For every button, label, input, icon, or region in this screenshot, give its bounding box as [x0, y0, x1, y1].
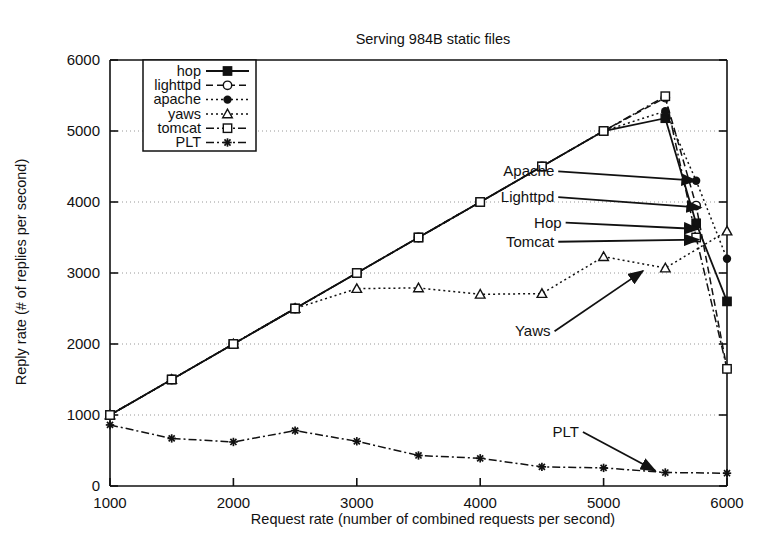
marker-tomcat [723, 365, 731, 373]
y-tick-label-1000: 1000 [67, 406, 100, 423]
x-tick-label-2000: 2000 [217, 494, 250, 511]
marker-hop [723, 297, 731, 305]
marker-PLT [291, 426, 299, 434]
legend-marker-apache [223, 95, 231, 103]
marker-tomcat [599, 127, 607, 135]
annotation-label-apache: Apache [503, 162, 554, 179]
legend-marker-PLT [223, 138, 231, 146]
annotation-label-hop: Hop [534, 214, 562, 231]
x-tick-label-5000: 5000 [587, 494, 620, 511]
marker-tomcat [168, 375, 176, 383]
x-tick-label-1000: 1000 [93, 494, 126, 511]
y-tick-label-4000: 4000 [67, 193, 100, 210]
legend-label-PLT: PLT [175, 134, 201, 150]
marker-PLT [168, 434, 176, 442]
marker-tomcat [414, 233, 422, 241]
marker-tomcat [291, 304, 299, 312]
y-tick-label-5000: 5000 [67, 122, 100, 139]
marker-PLT [353, 437, 361, 445]
marker-PLT [476, 454, 484, 462]
marker-PLT [723, 469, 731, 477]
chart-background [0, 0, 771, 557]
chart-title: Serving 984B static files [356, 31, 511, 47]
marker-tomcat [661, 92, 669, 100]
legend-marker-tomcat [223, 124, 231, 132]
y-tick-label-0: 0 [92, 477, 100, 494]
marker-PLT [414, 451, 422, 459]
marker-tomcat [476, 198, 484, 206]
x-tick-label-3000: 3000 [340, 494, 373, 511]
marker-PLT [661, 468, 669, 476]
y-tick-label-2000: 2000 [67, 335, 100, 352]
marker-tomcat [353, 269, 361, 277]
annotation-label-plt: PLT [553, 423, 579, 440]
annotation-label-yaws: Yaws [515, 322, 551, 339]
x-tick-label-4000: 4000 [464, 494, 497, 511]
marker-PLT [106, 421, 114, 429]
chart-legend: hoplighttpdapacheyawstomcatPLT [143, 60, 256, 151]
marker-PLT [538, 463, 546, 471]
x-tick-label-6000: 6000 [710, 494, 743, 511]
annotation-label-lighttpd: Lighttpd [501, 188, 554, 205]
marker-PLT [599, 464, 607, 472]
legend-marker-lighttpd [223, 81, 231, 89]
y-tick-label-6000: 6000 [67, 51, 100, 68]
marker-apache [723, 255, 731, 263]
marker-PLT [229, 438, 237, 446]
legend-marker-hop [223, 67, 231, 75]
marker-tomcat [106, 411, 114, 419]
line-chart-canvas: Serving 984B static files 10002000300040… [0, 0, 771, 557]
chart-figure: Serving 984B static files 10002000300040… [0, 0, 771, 557]
y-axis-title: Reply rate (# of replies per second) [13, 159, 29, 385]
annotation-label-tomcat: Tomcat [506, 233, 555, 250]
y-tick-label-3000: 3000 [67, 264, 100, 281]
x-axis-title: Request rate (number of combined request… [251, 511, 615, 527]
marker-tomcat [229, 340, 237, 348]
marker-lighttpd [692, 201, 700, 209]
